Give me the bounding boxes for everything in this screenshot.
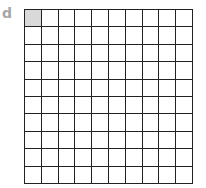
grid-cell: [92, 62, 109, 79]
grid-cell: [75, 132, 92, 149]
grid-cell: [42, 167, 59, 184]
grid-cell: [143, 27, 160, 44]
grid-cell: [92, 97, 109, 114]
grid-cell: [42, 27, 59, 44]
grid-cell: [159, 97, 176, 114]
grid-cell: [59, 114, 76, 131]
grid-cell: [109, 62, 126, 79]
grid-cell: [75, 149, 92, 166]
grid-cell: [75, 10, 92, 27]
grid-cell: [176, 114, 193, 131]
grid-cell: [25, 149, 42, 166]
grid-cell: [143, 149, 160, 166]
grid-cell: [25, 132, 42, 149]
grid-cell: [59, 149, 76, 166]
grid-cell: [59, 62, 76, 79]
grid-cell: [126, 10, 143, 27]
grid-cell: [159, 132, 176, 149]
grid-cell: [126, 114, 143, 131]
grid-cell: [109, 80, 126, 97]
grid-cell: [42, 97, 59, 114]
grid-cell: [159, 62, 176, 79]
grid-cell: [159, 114, 176, 131]
grid-cell: [126, 132, 143, 149]
hundred-grid: [24, 9, 193, 184]
grid-cell: [159, 27, 176, 44]
grid-cell: [143, 114, 160, 131]
grid-cell: [126, 167, 143, 184]
grid-cell: [126, 45, 143, 62]
grid-cell: [59, 45, 76, 62]
grid-cell: [159, 10, 176, 27]
grid-cell: [126, 149, 143, 166]
grid-cell: [176, 45, 193, 62]
grid-cell: [59, 97, 76, 114]
grid-cell: [25, 62, 42, 79]
grid-cell: [159, 149, 176, 166]
figure-label: d: [2, 5, 12, 21]
grid-cell: [59, 80, 76, 97]
grid-cell: [92, 45, 109, 62]
grid-cell: [42, 114, 59, 131]
grid-cell: [59, 10, 76, 27]
grid-cell: [143, 10, 160, 27]
grid-cell: [59, 167, 76, 184]
grid-cell: [92, 114, 109, 131]
grid-cell: [25, 114, 42, 131]
grid-cell: [92, 132, 109, 149]
grid-cell: [109, 149, 126, 166]
grid-cell: [109, 167, 126, 184]
grid-cell: [126, 62, 143, 79]
grid-cell: [75, 167, 92, 184]
grid-cell: [109, 45, 126, 62]
grid-cell: [176, 62, 193, 79]
grid-cell: [42, 80, 59, 97]
grid-cell: [59, 27, 76, 44]
grid-cell: [42, 45, 59, 62]
grid-cell: [25, 97, 42, 114]
grid-cell: [109, 114, 126, 131]
grid-cell: [176, 27, 193, 44]
grid-cell: [92, 167, 109, 184]
grid-cell: [176, 10, 193, 27]
grid-cell: [126, 97, 143, 114]
grid-cell: [109, 132, 126, 149]
grid-cell: [109, 97, 126, 114]
grid-cell: [92, 27, 109, 44]
grid-cell: [75, 62, 92, 79]
grid-cell: [143, 45, 160, 62]
grid-cell: [42, 149, 59, 166]
grid-cell: [176, 132, 193, 149]
grid-cell: [159, 80, 176, 97]
grid-cell: [126, 80, 143, 97]
grid-cell: [42, 132, 59, 149]
grid-cell: [75, 114, 92, 131]
grid-cell: [176, 149, 193, 166]
grid-cell: [92, 149, 109, 166]
grid-cell: [109, 27, 126, 44]
grid-cell: [25, 27, 42, 44]
grid-cell: [143, 80, 160, 97]
grid-cell: [143, 167, 160, 184]
grid-cell: [75, 27, 92, 44]
grid-cell: [25, 167, 42, 184]
grid-cell: [159, 167, 176, 184]
grid-cell: [176, 97, 193, 114]
grid-cell: [42, 62, 59, 79]
grid-cell: [75, 97, 92, 114]
grid-cell: [92, 80, 109, 97]
grid-cell: [143, 62, 160, 79]
grid-cell: [176, 80, 193, 97]
grid-cell: [92, 10, 109, 27]
grid-cell: [126, 27, 143, 44]
grid-cell: [59, 132, 76, 149]
grid-cell: [25, 80, 42, 97]
grid-cell: [176, 167, 193, 184]
grid-cell: [75, 45, 92, 62]
shaded-grid-cell: [25, 10, 42, 27]
grid-cell: [159, 45, 176, 62]
grid-cell: [143, 97, 160, 114]
grid-cell: [143, 132, 160, 149]
grid-cell: [42, 10, 59, 27]
grid-cell: [25, 45, 42, 62]
